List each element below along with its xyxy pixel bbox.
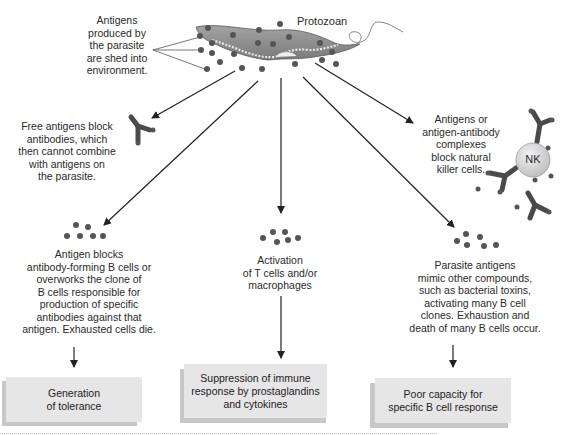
antigen-cluster-t-cell [260,229,301,245]
shed-pointer-lines [153,37,205,69]
outcome-box-poor-capacity: Poor capacity for specific B cell respon… [375,378,511,423]
outcome-box-tolerance: Generation of tolerance [6,377,142,422]
protozoan-icon [196,22,403,60]
antigen-cluster-b-cell [64,222,106,239]
nk-block-label: Antigens or antigen-antibody complexes b… [417,113,505,176]
bottom-divider [0,433,437,434]
t-cell-activation-label: Activation of T cells and/or macrophages [230,254,330,292]
antigen-cluster-mimicry [454,231,499,249]
arrow-to-free-antigens [152,71,235,118]
shed-antigens-label: Antigens produced by the parasite are sh… [80,14,154,77]
arrow-to-nk-block [315,63,413,123]
arrow-to-b-cell-block [104,81,258,225]
free-antigens-label: Free antigens block antibodies, which th… [12,120,122,183]
b-cell-block-label: Antigen blocks antibody-forming B cells … [14,248,164,336]
protozoan-label: Protozoan [297,15,347,28]
outcome-box-suppression: Suppression of immune response by prosta… [184,364,327,418]
antibody-icon [131,117,156,146]
mimicry-label: Parasite antigens mimic other compounds,… [405,259,545,334]
nk-cell-label: NK [516,153,550,166]
